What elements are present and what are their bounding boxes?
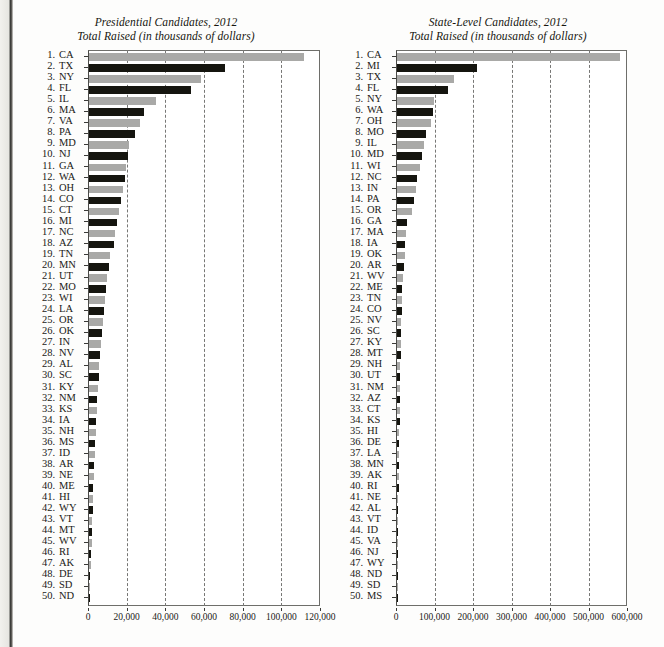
rank-number: 33. bbox=[31, 403, 55, 414]
state-abbreviation: MI bbox=[367, 60, 391, 71]
state-abbreviation: AK bbox=[367, 469, 391, 480]
rank-number: 34. bbox=[339, 414, 363, 425]
rank-number: 24. bbox=[339, 303, 363, 314]
bar-row bbox=[88, 471, 320, 482]
state-abbreviation: WV bbox=[367, 270, 391, 281]
y-axis-label: 50.MS bbox=[332, 590, 393, 601]
rank-number: 2. bbox=[31, 60, 55, 71]
bar-ut bbox=[89, 274, 107, 282]
y-axis-label: 17.NC bbox=[0, 226, 85, 237]
state-abbreviation: AR bbox=[59, 458, 83, 469]
bar-nc bbox=[89, 230, 115, 238]
rank-number: 22. bbox=[339, 281, 363, 292]
y-axis-label: 49.SD bbox=[332, 579, 393, 590]
bar-row bbox=[88, 515, 320, 526]
y-axis-label: 47.WY bbox=[332, 557, 393, 568]
bar-row bbox=[88, 460, 320, 471]
bar-row bbox=[396, 548, 627, 559]
bar-row bbox=[396, 471, 627, 482]
rank-number: 37. bbox=[339, 447, 363, 458]
state-abbreviation: MD bbox=[59, 137, 83, 148]
state-abbreviation: SD bbox=[367, 579, 391, 590]
rank-number: 19. bbox=[339, 248, 363, 259]
bar-row bbox=[396, 228, 627, 239]
state-abbreviation: ND bbox=[367, 568, 391, 579]
bar-row bbox=[396, 51, 627, 62]
rank-number: 45. bbox=[31, 535, 55, 546]
bar-tx bbox=[89, 64, 225, 72]
y-axis-label: 14.CO bbox=[0, 193, 85, 204]
y-axis-label: 21.WV bbox=[332, 270, 393, 281]
state-abbreviation: ID bbox=[59, 447, 83, 458]
bar-mi bbox=[89, 219, 117, 227]
bar-row bbox=[396, 504, 627, 515]
y-axis-label: 18.AZ bbox=[0, 237, 85, 248]
bar-va bbox=[397, 539, 398, 547]
bar-row bbox=[88, 283, 320, 294]
bar-ms bbox=[89, 440, 95, 448]
state-abbreviation: VT bbox=[59, 513, 83, 524]
y-axis-label: 49.SD bbox=[0, 579, 85, 590]
y-axis-label: 29.NH bbox=[332, 358, 393, 369]
bar-row bbox=[88, 62, 320, 73]
state-abbreviation: NC bbox=[367, 171, 391, 182]
x-axis-tick bbox=[473, 608, 474, 611]
rank-number: 45. bbox=[339, 535, 363, 546]
bar-or bbox=[89, 318, 103, 326]
state-abbreviation: GA bbox=[367, 215, 391, 226]
state-abbreviation: MD bbox=[367, 148, 391, 159]
rank-number: 26. bbox=[31, 325, 55, 336]
y-axis-label: 41.HI bbox=[0, 491, 85, 502]
bar-me bbox=[397, 285, 402, 293]
y-axis-label: 31.KY bbox=[0, 381, 85, 392]
rank-number: 42. bbox=[31, 502, 55, 513]
state-abbreviation: ND bbox=[59, 590, 83, 601]
bar-row bbox=[88, 405, 320, 416]
rank-number: 41. bbox=[339, 491, 363, 502]
y-axis-label: 2.MI bbox=[332, 60, 393, 71]
bar-ok bbox=[89, 329, 102, 337]
bar-row bbox=[396, 239, 627, 250]
state-abbreviation: NM bbox=[367, 381, 391, 392]
bar-row bbox=[396, 460, 627, 471]
rank-number: 29. bbox=[339, 358, 363, 369]
bar-ct bbox=[397, 407, 400, 415]
state-abbreviation: CT bbox=[59, 204, 83, 215]
y-axis-label: 20.MN bbox=[0, 259, 85, 270]
y-axis-label: 13.IN bbox=[332, 182, 393, 193]
bar-row bbox=[396, 570, 627, 581]
state-abbreviation: MA bbox=[59, 104, 83, 115]
bar-nh bbox=[397, 362, 400, 370]
rank-number: 8. bbox=[31, 126, 55, 137]
state-abbreviation: KY bbox=[59, 381, 83, 392]
y-axis-label: 24.LA bbox=[0, 303, 85, 314]
bar-row bbox=[396, 73, 627, 84]
state-abbreviation: TN bbox=[367, 292, 391, 303]
rank-number: 42. bbox=[339, 502, 363, 513]
x-axis-tick bbox=[127, 608, 128, 611]
bar-az bbox=[397, 396, 400, 404]
y-axis-label: 3.TX bbox=[332, 71, 393, 82]
rank-number: 18. bbox=[339, 237, 363, 248]
bar-la bbox=[397, 451, 399, 459]
state-abbreviation: NY bbox=[59, 71, 83, 82]
bar-tx bbox=[397, 75, 454, 83]
rank-number: 16. bbox=[31, 215, 55, 226]
y-axis-label: 28.NV bbox=[0, 347, 85, 358]
bar-row bbox=[396, 327, 627, 338]
rank-number: 43. bbox=[31, 513, 55, 524]
bar-row bbox=[88, 206, 320, 217]
x-axis-tick bbox=[281, 608, 282, 611]
y-axis-label: 41.NE bbox=[332, 491, 393, 502]
chart-title-presidential: Presidential Candidates, 2012 bbox=[0, 15, 332, 29]
rank-number: 47. bbox=[339, 557, 363, 568]
bar-md bbox=[89, 141, 129, 149]
state-abbreviation: CT bbox=[367, 403, 391, 414]
y-axis-label: 7.OH bbox=[332, 115, 393, 126]
state-abbreviation: ME bbox=[367, 281, 391, 292]
bar-row bbox=[88, 371, 320, 382]
bar-row bbox=[396, 250, 627, 261]
rank-number: 10. bbox=[339, 148, 363, 159]
y-axis-label: 21.UT bbox=[0, 270, 85, 281]
y-axis-label: 46.NJ bbox=[332, 546, 393, 557]
